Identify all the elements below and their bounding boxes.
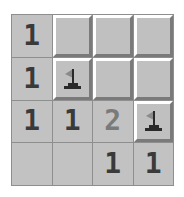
cell-r3-c1[interactable]	[53, 143, 93, 185]
cell-number: 1	[145, 150, 162, 178]
cell-r0-c1[interactable]	[53, 15, 93, 57]
cell-number: 2	[104, 107, 121, 135]
cell-number: 1	[23, 107, 40, 135]
cell-number: 1	[23, 65, 40, 93]
flag-icon	[61, 67, 83, 91]
cell-r2-c1[interactable]: 1	[53, 101, 93, 143]
cell-r2-c0[interactable]: 1	[12, 101, 52, 143]
cell-r3-c3[interactable]: 1	[134, 143, 174, 185]
cell-number: 1	[64, 107, 81, 135]
cell-r0-c3[interactable]	[134, 15, 174, 57]
cell-r3-c2[interactable]: 1	[93, 143, 133, 185]
cell-r1-c0[interactable]: 1	[12, 58, 52, 100]
cell-r2-c2[interactable]: 2	[93, 101, 133, 143]
cell-r2-c3[interactable]	[134, 101, 174, 143]
cell-number: 1	[23, 22, 40, 50]
minesweeper-board: 1 1 1 1 2 1 1	[11, 14, 174, 186]
cell-r1-c1[interactable]	[53, 58, 93, 100]
cell-r1-c3[interactable]	[134, 58, 174, 100]
cell-r0-c0[interactable]: 1	[12, 15, 52, 57]
flag-icon	[142, 109, 164, 133]
cell-r1-c2[interactable]	[93, 58, 133, 100]
cell-number: 1	[104, 150, 121, 178]
cell-r0-c2[interactable]	[93, 15, 133, 57]
cell-r3-c0[interactable]	[12, 143, 52, 185]
